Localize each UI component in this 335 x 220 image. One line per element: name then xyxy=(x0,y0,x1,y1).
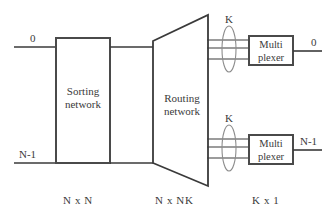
multiplexer-bottom-label-line2: plexer xyxy=(249,151,293,164)
multiplexer-bottom-label: Multi plexer xyxy=(249,138,293,163)
bundle-bottom-label: K xyxy=(225,113,233,124)
spec-multiplexer-label: K x 1 xyxy=(252,195,279,206)
multiplexer-top-label: Multi plexer xyxy=(249,39,293,64)
routing-network-label: Routing network xyxy=(155,92,209,118)
multiplexer-top-label-line1: Multi xyxy=(249,39,293,52)
input-label-top: 0 xyxy=(30,33,36,44)
spec-routing-label: N x NK xyxy=(155,195,193,206)
figure-canvas: 0 N-1 0 N-1 Sorting network Routing netw… xyxy=(0,0,335,220)
input-label-bottom: N-1 xyxy=(19,149,36,160)
output-label-bottom: N-1 xyxy=(300,136,317,147)
multiplexer-bottom-label-line1: Multi xyxy=(249,138,293,151)
multiplexer-top-label-line2: plexer xyxy=(249,52,293,65)
output-label-top: 0 xyxy=(311,37,317,48)
bundle-top-label: K xyxy=(225,14,233,25)
routing-network-label-line1: Routing xyxy=(155,92,209,105)
bundle-bottom-ellipse xyxy=(222,125,236,171)
sorting-network-label-line1: Sorting xyxy=(56,85,110,98)
sorting-network-label-line2: network xyxy=(56,98,110,111)
routing-network-label-line2: network xyxy=(155,105,209,118)
sorting-network-label: Sorting network xyxy=(56,85,110,111)
spec-sorting-label: N x N xyxy=(63,195,93,206)
bundle-top-ellipse xyxy=(222,26,236,72)
